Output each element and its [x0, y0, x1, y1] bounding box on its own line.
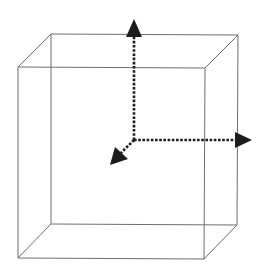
cube-axes-diagram — [0, 0, 268, 276]
arrow-up-icon — [126, 19, 142, 37]
cube-edge-top-left — [18, 34, 51, 67]
arrow-right-icon — [235, 132, 252, 148]
cube-edge-bottom-right — [204, 225, 237, 259]
coordinate-axes — [110, 19, 252, 165]
cube-edge-bottom-left — [18, 224, 51, 258]
depth-axis-line — [121, 140, 134, 153]
cube-edge-top-right — [205, 35, 238, 68]
